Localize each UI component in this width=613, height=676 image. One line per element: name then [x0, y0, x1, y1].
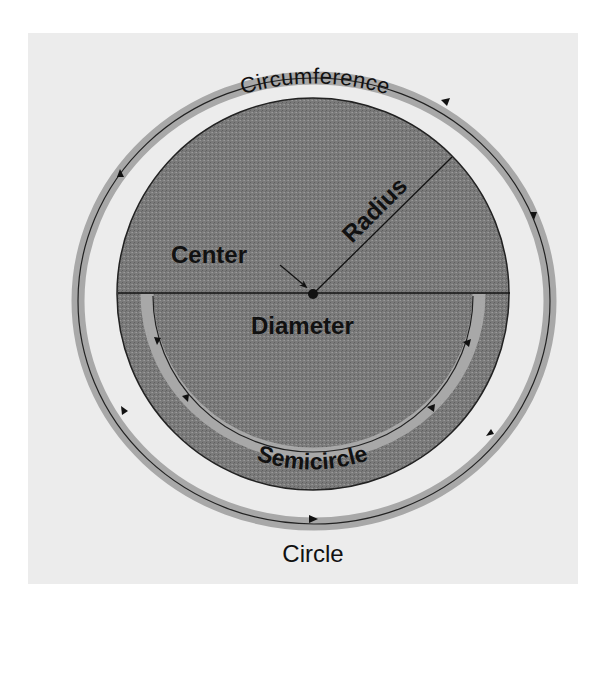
center-label: Center	[171, 241, 247, 268]
circle-parts-diagram: Circumference Radius Center Diameter Sem…	[0, 0, 613, 676]
diameter-label: Diameter	[251, 312, 354, 339]
center-point	[308, 289, 318, 299]
circle-title: Circle	[282, 540, 343, 567]
